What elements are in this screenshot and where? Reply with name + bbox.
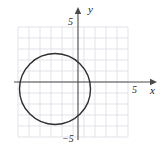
x-axis-tick-label-5: 5 — [132, 85, 137, 95]
circle-graph — [20, 54, 91, 125]
y-axis-label: y — [88, 4, 93, 15]
plot-canvas — [0, 0, 162, 154]
coordinate-plane-figure: y x 5 −5 5 — [0, 0, 162, 154]
x-axis-label: x — [150, 85, 155, 96]
y-axis-tick-label-5: 5 — [68, 17, 73, 27]
y-axis-tick-label-negative-5: −5 — [62, 134, 74, 144]
